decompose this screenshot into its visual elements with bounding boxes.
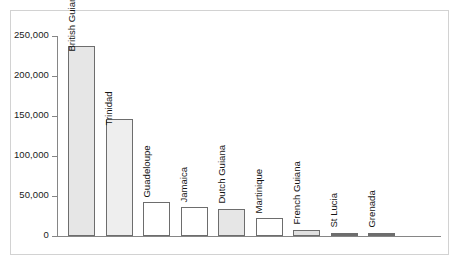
bar-group[interactable]: Guadeloupe (143, 36, 170, 236)
bar-group[interactable]: British Guiana (68, 36, 95, 236)
bar-label: British Guiana (67, 0, 77, 52)
bar[interactable] (293, 230, 320, 236)
bar[interactable] (256, 218, 283, 236)
bar-label: Trinidad (104, 91, 114, 125)
y-tick-label: 200,000 (14, 69, 49, 80)
bar-label: Martinique (254, 169, 264, 214)
bars-layer: British GuianaTrinidadGuadeloupeJamaicaD… (57, 36, 441, 236)
y-tick-label: 250,000 (14, 29, 49, 40)
y-tick-label: 0 (44, 229, 49, 240)
y-tick-label: 150,000 (14, 109, 49, 120)
bar-group[interactable]: Martinique (256, 36, 283, 236)
bar-group[interactable]: Dutch Guiana (218, 36, 245, 236)
chart-figure: 250,000200,000150,000100,00050,0000 Brit… (10, 10, 449, 255)
y-tick-mark (52, 236, 57, 237)
bar-group[interactable]: Grenada (368, 36, 395, 236)
bar-label: Dutch Guiana (217, 145, 227, 204)
bar[interactable] (218, 209, 245, 236)
bar-label: St Lucia (329, 193, 339, 228)
y-tick-label: 100,000 (14, 149, 49, 160)
bar-group[interactable]: Jamaica (181, 36, 208, 236)
bar-group[interactable]: Trinidad (106, 36, 133, 236)
bar-label: French Guiana (292, 161, 302, 224)
bar-group[interactable]: St Lucia (331, 36, 358, 236)
bar-group[interactable]: French Guiana (293, 36, 320, 236)
bar-label: Jamaica (179, 166, 189, 202)
bar-label: Grenada (367, 191, 377, 228)
bar[interactable] (143, 202, 170, 236)
bar[interactable] (331, 233, 358, 236)
bar[interactable] (106, 119, 133, 236)
y-tick-label: 50,000 (19, 189, 49, 200)
plot-area: 250,000200,000150,000100,00050,0000 Brit… (57, 36, 441, 236)
x-axis-line (57, 236, 441, 237)
bar[interactable] (368, 233, 395, 236)
bar[interactable] (181, 207, 208, 236)
bar[interactable] (68, 46, 95, 236)
bar-label: Guadeloupe (142, 145, 152, 197)
